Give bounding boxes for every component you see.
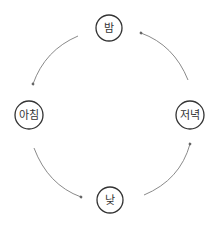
node-day: 낮 <box>97 187 123 213</box>
edge-evening-to-night <box>141 33 188 80</box>
node-label-morning: 아침 <box>19 109 39 122</box>
node-morning: 아침 <box>15 101 43 129</box>
node-label-night: 밤 <box>104 22 114 35</box>
node-night: 밤 <box>96 15 122 41</box>
cycle-diagram: 밤 아침 낮 저녁 <box>0 0 218 232</box>
node-label-evening: 저녁 <box>180 109 200 122</box>
node-label-day: 낮 <box>105 194 115 207</box>
node-evening: 저녁 <box>176 101 204 129</box>
edge-night-to-morning <box>33 36 78 84</box>
edge-day-to-evening <box>144 144 190 195</box>
edge-morning-to-day <box>34 148 81 197</box>
